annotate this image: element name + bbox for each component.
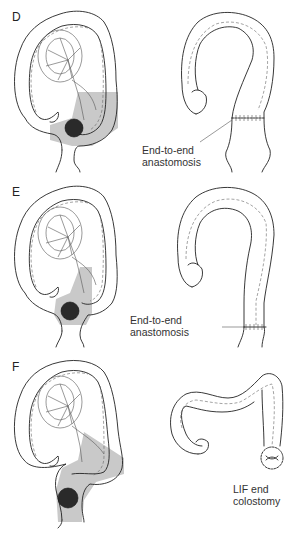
annotation-d: End-to-end anastomosis — [142, 144, 201, 168]
panel-f: F LIF end colostomy — [0, 350, 291, 533]
stoma-icon — [261, 447, 283, 469]
annotation-e-line2: anastomosis — [130, 326, 189, 338]
annotation-f-line2: colostomy — [233, 495, 280, 507]
tumor-d — [65, 119, 83, 137]
annotation-d-line2: anastomosis — [142, 156, 201, 168]
annotation-f-line1: LIF end — [233, 483, 280, 495]
panel-e: E End-to-end anastomosis — [0, 175, 291, 350]
tumor-f — [58, 488, 78, 508]
panel-d: D End-to-end anastomosis — [0, 0, 291, 175]
annotation-e: End-to-end anastomosis — [130, 314, 189, 338]
annotation-f: LIF end colostomy — [233, 483, 280, 507]
tumor-e — [61, 302, 79, 320]
annotation-d-line1: End-to-end — [142, 144, 201, 156]
annotation-e-line1: End-to-end — [130, 314, 189, 326]
